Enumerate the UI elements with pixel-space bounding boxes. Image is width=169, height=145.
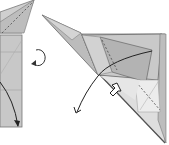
origami-diagram <box>0 0 169 145</box>
previous-step-model <box>0 0 34 127</box>
turn-over-arrow-icon <box>31 50 45 66</box>
current-step-model <box>42 15 166 143</box>
